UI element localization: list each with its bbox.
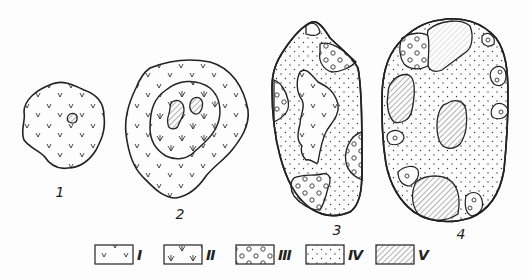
stage-label-2: 2 [176,206,185,222]
diagram-canvas [0,0,529,280]
stage-1-body [23,82,105,168]
stage-3-body [272,22,362,216]
stage-2-body [126,60,249,198]
stage-4-body [382,19,508,222]
legend-label-I: I [137,247,141,263]
legend-swatch-III [236,245,274,264]
stage-label-4: 4 [457,226,466,242]
legend-swatch-IV [306,245,344,264]
legend-label-III: III [278,247,291,263]
legend-swatch-I [95,245,133,264]
stage-label-3: 3 [333,222,342,238]
legend-label-V: V [418,247,428,263]
stage-1-hatched-core [67,113,77,123]
legend-swatch-V [376,245,414,264]
legend [95,245,414,264]
legend-swatch-II [164,245,202,264]
legend-label-IV: IV [348,247,362,263]
legend-label-II: II [206,247,214,263]
stage-label-1: 1 [56,184,65,200]
